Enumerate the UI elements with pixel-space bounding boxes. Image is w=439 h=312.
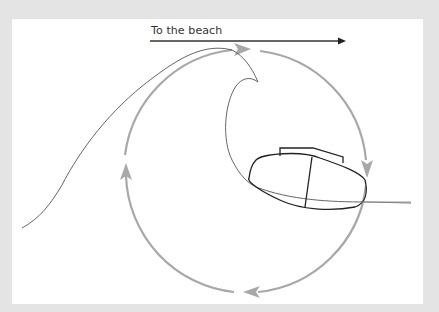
beach-direction-label: To the beach bbox=[151, 24, 222, 37]
orbit-arrowheads bbox=[120, 43, 373, 298]
arrowhead-left-icon bbox=[243, 286, 260, 298]
orbit-arc-lower-left bbox=[126, 176, 234, 292]
boat-hull bbox=[249, 148, 367, 209]
wave-profile bbox=[22, 48, 411, 228]
arrowhead-right-icon bbox=[234, 43, 251, 56]
boat-outline bbox=[249, 154, 367, 210]
orbit-arc-upper-left bbox=[125, 50, 232, 155]
orbit-arc-upper-right bbox=[260, 51, 366, 160]
arrowhead-down-icon bbox=[361, 160, 373, 178]
arrowhead-icon bbox=[338, 38, 346, 45]
wave-orbit-diagram bbox=[0, 0, 439, 312]
circular-orbit-arrows bbox=[125, 50, 366, 292]
beach-direction-arrow bbox=[150, 38, 346, 45]
